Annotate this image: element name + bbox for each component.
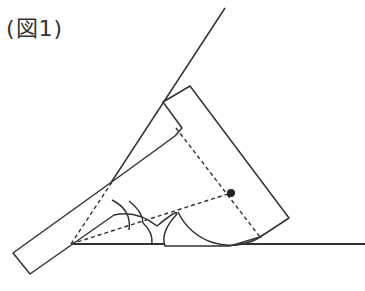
angle-arc-3 (143, 223, 152, 244)
center-dot (227, 189, 235, 197)
t-square-outline (13, 86, 289, 274)
t-square-angle-diagram (0, 0, 365, 291)
